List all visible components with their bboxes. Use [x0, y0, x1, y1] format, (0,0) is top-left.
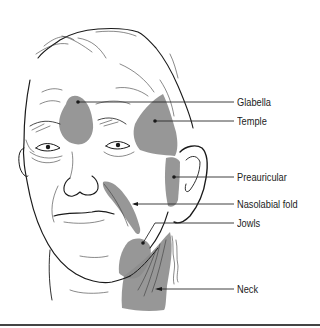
label-neck: Neck	[237, 283, 258, 295]
label-glabella: Glabella	[237, 96, 271, 108]
label-preauricular: Preauricular	[237, 171, 287, 183]
neck-fold	[70, 290, 108, 293]
temple-dot	[153, 119, 157, 123]
jowls-dot	[141, 241, 145, 245]
label-temple: Temple	[237, 115, 267, 127]
bottom-rule	[0, 324, 320, 326]
nasolabial-arrow-icon	[132, 202, 138, 206]
artist-signature	[172, 236, 178, 284]
mouth	[54, 211, 114, 216]
left-brow	[30, 121, 60, 126]
forehead-wrinkle	[116, 87, 148, 96]
label-jowls: Jowls	[237, 217, 260, 229]
hair-strand	[78, 38, 106, 58]
nose	[64, 176, 98, 196]
jowls-leader	[143, 223, 234, 243]
glabella-region	[59, 96, 93, 145]
preauricular-dot	[172, 175, 176, 179]
preauricular-region	[165, 157, 180, 207]
shaded-regions	[59, 94, 180, 311]
forehead-wrinkle	[40, 101, 60, 104]
hair-strand	[96, 31, 136, 36]
face-illustration	[0, 0, 320, 328]
right-pupil	[116, 143, 120, 147]
face-aging-diagram: Glabella Temple Preauricular Nasolabial …	[0, 0, 320, 328]
cheek-crease	[52, 186, 58, 222]
neck-outline-left	[49, 250, 52, 300]
hair-strand	[170, 54, 178, 78]
lower-lip	[64, 220, 104, 223]
forehead-wrinkle	[42, 89, 62, 92]
glabella-dot	[76, 100, 80, 104]
label-nasolabial-fold: Nasolabial fold	[237, 198, 298, 210]
forehead-wrinkle	[96, 101, 130, 104]
chin-crease	[80, 256, 108, 258]
ear-inner	[185, 156, 200, 191]
left-pupil	[46, 145, 50, 149]
nose-bridge	[70, 152, 73, 178]
